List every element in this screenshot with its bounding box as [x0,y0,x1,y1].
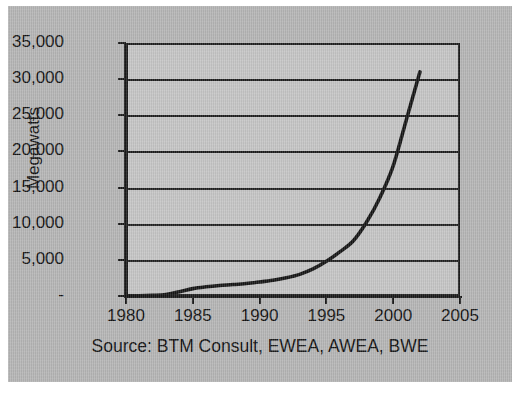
x-tick-mark [392,297,394,304]
y-tick-mark [118,187,126,189]
gridline-5000 [128,260,458,262]
x-axis-line [124,296,462,298]
x-tick-mark [459,297,461,304]
y-tick-mark [118,223,126,225]
y-tick-label: - [8,285,64,305]
plot-wrapper: -5,00010,00015,00020,00025,00030,00035,0… [8,6,512,382]
y-tick-label: 5,000 [8,249,64,269]
gridline-10000 [128,224,458,226]
gridline-20000 [128,151,458,153]
plot-area [126,43,460,296]
y-tick-mark [118,150,126,152]
gridline-35000 [128,43,458,45]
y-tick-label: 35,000 [8,32,64,52]
x-tick-mark [325,297,327,304]
x-tick-mark [192,297,194,304]
x-tick-label: 2005 [415,306,505,326]
y-tick-mark [118,78,126,80]
y-axis-title: Megawatts [24,78,44,218]
y-tick-mark [118,259,126,261]
y-tick-mark [118,114,126,116]
chart-figure: -5,00010,00015,00020,00025,00030,00035,0… [8,6,512,382]
y-tick-mark [118,42,126,44]
gridline-25000 [128,115,458,117]
x-tick-mark [259,297,261,304]
x-tick-mark [125,297,127,304]
gridline-30000 [128,79,458,81]
source-note: Source: BTM Consult, EWEA, AWEA, BWE [8,336,512,357]
gridline-15000 [128,188,458,190]
